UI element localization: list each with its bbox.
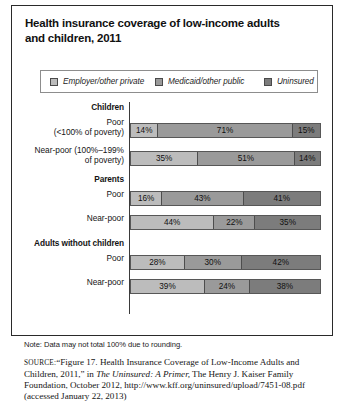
bar-segment: 44% [131,216,213,229]
legend-swatch-icon [264,78,272,86]
bar-segment: 35% [131,152,197,165]
row-label: Children [0,103,124,113]
row-label: Parents [0,175,124,185]
bar-segment: 42% [241,256,320,269]
row-label-line2: (<100% of poverty) [0,128,124,138]
bar-segment: 15% [292,124,320,137]
stacked-bar: 16%43%41% [130,191,321,206]
bar-segment: 51% [197,152,293,165]
chart-bar-row: Poor(<100% of poverty)14%71%15% [25,118,321,136]
chart-bar-row: Near-poor (100%–199%of poverty)35%51%14% [25,146,321,164]
chart-bar-row: Poor16%43%41% [25,190,321,208]
row-label: Near-poor [0,278,124,288]
stacked-bar: 44%22%35% [130,215,321,230]
stacked-bar: 28%30%42% [130,255,321,270]
row-label: Adults without children [0,239,124,249]
legend-label: Employer/other private [63,77,144,86]
row-label: Near-poor (100%–199%of poverty) [0,146,124,165]
bar-segment: 14% [294,152,320,165]
legend-item-uninsured: Uninsured [264,77,314,86]
bar-segment: 14% [131,124,157,137]
page-title: Health insurance coverage of low-income … [25,16,297,45]
bar-segment: 16% [131,192,161,205]
source-prefix: SOURCE: [24,358,56,367]
row-label: Poor(<100% of poverty) [0,118,124,137]
bar-segment: 39% [131,280,204,293]
bar-segment: 22% [213,216,254,229]
chart-bar-row: Near-poor39%24%38% [25,278,321,296]
row-label: Near-poor [0,214,124,224]
legend-label: Medicaid/other public [168,77,244,86]
row-label: Poor [0,254,124,264]
row-label-line2: of poverty) [0,156,124,166]
bar-segment: 28% [131,256,184,269]
row-label: Poor [0,190,124,200]
chart-note: Note: Data may not total 100% due to rou… [24,340,182,349]
chart-bar-row: Poor28%30%42% [25,254,321,272]
legend-label: Uninsured [277,77,314,86]
chart-bar-row: Near-poor44%22%35% [25,214,321,232]
bar-segment: 43% [161,192,242,205]
legend-item-employer-other-private: Employer/other private [50,77,144,86]
chart-legend: Employer/other private Medicaid/other pu… [40,70,318,93]
bar-segment: 41% [243,192,320,205]
legend-item-medicaid-other-public: Medicaid/other public [155,77,244,86]
source-publication-title: The Uninsured: A Primer, [96,369,190,379]
legend-swatch-icon [155,78,163,86]
figure-frame: Health insurance coverage of low-income … [11,5,333,336]
bar-segment: 35% [254,216,319,229]
chart-plot-area: ChildrenPoor(<100% of poverty)14%71%15%N… [25,102,321,314]
chart-source: SOURCE:“Figure 17. Health Insurance Cove… [24,357,324,402]
stacked-bar: 39%24%38% [130,279,321,294]
bar-segment: 38% [249,280,320,293]
stacked-bar: 35%51%14% [130,151,321,166]
bar-segment: 24% [204,280,249,293]
legend-swatch-icon [50,78,58,86]
stacked-bar: 14%71%15% [130,123,321,138]
bar-segment: 30% [184,256,241,269]
bar-segment: 71% [157,124,291,137]
